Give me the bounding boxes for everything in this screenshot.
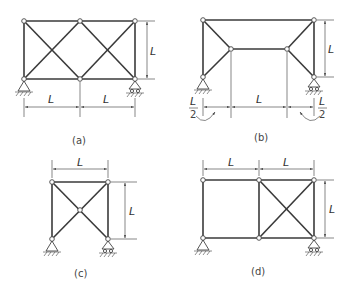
half-dim-denominator: 2 [319, 109, 325, 120]
half-dim-numerator: L [190, 95, 196, 108]
dim-label: L [256, 93, 262, 106]
caption-c: (c) [74, 268, 87, 279]
truss-b: L L L 2 L 2 (b) [189, 18, 334, 143]
dim-label: L [328, 43, 334, 56]
roller-support-icon [99, 241, 117, 257]
half-dim-numerator: L [319, 95, 325, 108]
dim-label: L [283, 156, 289, 169]
pin-support-icon [43, 241, 61, 256]
half-dim-denominator: 2 [190, 109, 196, 120]
dim-label: L [228, 156, 234, 169]
caption-d: (d) [251, 266, 265, 277]
dim-label: L [150, 45, 156, 58]
roller-support-icon [126, 81, 144, 97]
caption-a: (a) [72, 135, 86, 146]
dim-label: L [77, 156, 83, 169]
caption-b: (b) [254, 132, 268, 143]
truss-d: L L L (d) [194, 156, 335, 277]
pin-support-icon [15, 81, 33, 96]
dim-label: L [329, 203, 335, 216]
truss-a: L L L (a) [15, 19, 156, 146]
pin-support-icon [194, 79, 212, 94]
dim-label: L [103, 93, 109, 106]
roller-support-icon [305, 240, 323, 256]
truss-c: L L (c) [43, 156, 137, 279]
dim-label: L [129, 205, 135, 218]
roller-support-icon [305, 79, 323, 95]
pin-support-icon [194, 240, 212, 255]
dim-label: L [48, 93, 54, 106]
truss-diagram: L L L (a) L [0, 0, 353, 292]
